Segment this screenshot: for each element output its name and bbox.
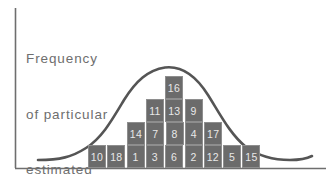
histogram-blocks: 161113914784171018136212515 (0, 0, 333, 189)
histogram-block: 14 (127, 122, 145, 145)
histogram-block: 1 (127, 145, 145, 168)
histogram-block: 16 (165, 76, 183, 99)
histogram-block: 5 (223, 145, 241, 168)
histogram-block: 12 (204, 145, 222, 168)
histogram-block: 4 (185, 122, 203, 145)
histogram-block: 15 (242, 145, 260, 168)
histogram-block: 13 (165, 99, 183, 122)
histogram-block: 2 (185, 145, 203, 168)
histogram-figure: Frequency of particular estimated values… (0, 0, 333, 189)
histogram-block: 3 (146, 145, 164, 168)
histogram-block: 6 (165, 145, 183, 168)
histogram-block: 17 (204, 122, 222, 145)
histogram-block: 11 (146, 99, 164, 122)
histogram-block: 9 (185, 99, 203, 122)
histogram-block: 8 (166, 122, 184, 145)
histogram-block: 10 (88, 145, 106, 168)
histogram-block: 7 (146, 122, 164, 145)
histogram-block: 18 (107, 145, 125, 168)
